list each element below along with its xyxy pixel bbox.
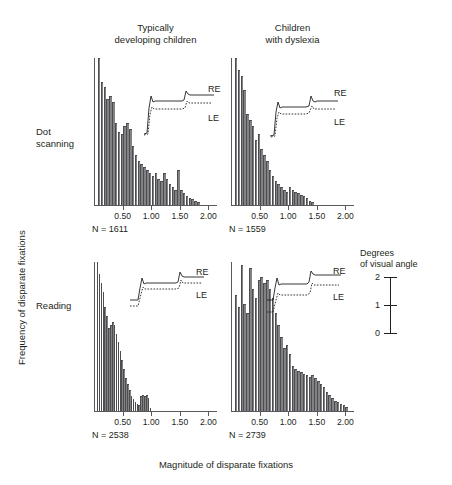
panel4-re-label: RE (333, 266, 346, 276)
x-axis-tick-label: 1.00 (273, 417, 303, 427)
histogram-bar (197, 202, 199, 205)
panel3-n-label: N = 2538 (92, 430, 129, 440)
visual-angle-legend: Degrees of visual angle 2 1 0 (360, 248, 450, 335)
x-axis-tick-label: 2.00 (330, 417, 360, 427)
y-axis-label: Frequency of disparate fixations (16, 230, 27, 365)
legend-tick-1 (384, 305, 397, 306)
x-axis-tick (180, 412, 181, 416)
x-axis-tick (317, 412, 318, 416)
x-axis-tick (208, 412, 209, 416)
right-eye-trace (144, 91, 214, 134)
histogram-bar (311, 202, 313, 205)
panel3-le-label: LE (196, 290, 207, 300)
column-title-typically-developing: Typically developing children (88, 22, 223, 45)
x-axis-tick (260, 412, 261, 416)
legend-scale-bar: 2 1 0 (360, 273, 420, 335)
panel4-x-axis (231, 411, 354, 412)
x-axis-tick-label: 1.00 (136, 417, 166, 427)
x-axis-tick-label: 2.00 (193, 417, 223, 427)
panel1-le-label: LE (208, 113, 219, 123)
figure-canvas: Frequency of disparate fixations Typical… (0, 0, 452, 485)
x-axis-tick (123, 206, 124, 210)
panel2-x-axis (231, 205, 354, 206)
histogram-bar (345, 407, 347, 411)
x-axis-tick (288, 206, 289, 210)
column-title-dyslexia: Children with dyslexia (225, 22, 360, 45)
x-axis-tick (288, 412, 289, 416)
x-axis-tick (123, 412, 124, 416)
left-eye-trace (267, 283, 339, 312)
x-axis-tick-label: 1.00 (273, 211, 303, 221)
x-axis-tick (151, 206, 152, 210)
histogram-bar (150, 408, 152, 411)
legend-tick-0 (384, 333, 397, 334)
left-eye-trace (144, 101, 212, 135)
panel2-eye-trace-inset (268, 92, 344, 140)
x-axis-tick (180, 206, 181, 210)
panel2-n-label: N = 1559 (229, 224, 266, 234)
x-axis-tick-label: 1.50 (165, 417, 195, 427)
row-label-reading: Reading (36, 300, 92, 312)
x-axis-label: Magnitude of disparate fixations (0, 459, 452, 470)
legend-tick-2 (384, 277, 397, 278)
left-eye-trace (271, 106, 336, 137)
x-axis-tick-label: 1.50 (302, 211, 332, 221)
right-eye-trace (130, 272, 204, 300)
panel1-eye-trace-inset (142, 88, 218, 136)
x-axis-tick (260, 206, 261, 210)
right-eye-trace (270, 96, 338, 136)
legend-title: Degrees of visual angle (360, 248, 450, 270)
x-axis-tick-label: 1.00 (136, 211, 166, 221)
x-axis-tick-label: 0.50 (245, 417, 275, 427)
x-axis-tick-label: 2.00 (330, 211, 360, 221)
panel4-n-label: N = 2739 (229, 430, 266, 440)
x-axis-tick (151, 412, 152, 416)
x-axis-tick-label: 1.50 (302, 417, 332, 427)
x-axis-tick-label: 0.50 (108, 211, 138, 221)
x-axis-tick-label: 1.50 (165, 211, 195, 221)
x-axis-tick (317, 206, 318, 210)
right-eye-trace (267, 271, 341, 300)
x-axis-tick-label: 0.50 (108, 417, 138, 427)
x-axis-tick (345, 412, 346, 416)
panel4-le-label: LE (333, 292, 344, 302)
panel2-re-label: RE (334, 88, 347, 98)
panel3-x-axis (94, 411, 217, 412)
panel1-n-label: N = 1611 (92, 224, 128, 234)
legend-number-0: 0 (368, 328, 380, 338)
panel2-le-label: LE (334, 117, 345, 127)
x-axis-tick (345, 206, 346, 210)
panel1-re-label: RE (208, 84, 221, 94)
x-axis-tick-label: 2.00 (193, 211, 223, 221)
panel1-x-axis (94, 205, 217, 206)
eye-trace-svg (142, 88, 218, 136)
legend-number-2: 2 (368, 272, 380, 282)
panel3-re-label: RE (196, 267, 209, 277)
legend-number-1: 1 (368, 300, 380, 310)
x-axis-tick (208, 206, 209, 210)
row-label-dot-scanning: Dot scanning (36, 126, 92, 149)
eye-trace-svg (268, 92, 344, 140)
x-axis-tick-label: 0.50 (245, 211, 275, 221)
